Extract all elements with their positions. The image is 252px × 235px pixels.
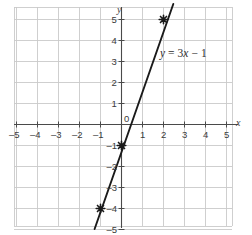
- x-tick-label: –1: [93, 130, 104, 140]
- y-tick-label: –1: [107, 141, 118, 151]
- equation-annotation: y=3x−1: [160, 48, 207, 60]
- equation-equals: =: [168, 47, 175, 59]
- y-tick-label: –3: [107, 183, 118, 193]
- y-tick-label: 4: [112, 36, 117, 46]
- origin-tick-label: 0: [124, 114, 129, 124]
- plotted-line: [95, 4, 174, 229]
- star-icon: [159, 15, 168, 24]
- y-tick-label: –5: [107, 225, 118, 235]
- x-axis-label: x: [236, 118, 240, 128]
- x-tick-label: –4: [30, 130, 41, 140]
- star-icon: [96, 204, 105, 213]
- x-tick-label: 2: [161, 130, 166, 140]
- x-tick-label: –5: [9, 130, 20, 140]
- equation-intercept: 1: [201, 47, 207, 59]
- y-tick-label: 1: [112, 99, 117, 109]
- x-tick-label: 5: [224, 130, 229, 140]
- equation-minus: −: [191, 47, 198, 59]
- x-tick-label: 4: [203, 130, 208, 140]
- data-point-marker: [96, 204, 105, 213]
- equation-y: y: [160, 47, 165, 59]
- equation-x: x: [183, 47, 188, 59]
- coordinate-graph-figure: y x 0 y=3x−1 –5–4–3–2–112345 –5–4–3–2–11…: [0, 0, 252, 235]
- y-axis-label: y: [117, 5, 121, 15]
- y-tick-label: 5: [112, 15, 117, 25]
- data-point-marker: [159, 15, 168, 24]
- data-point-marker: [117, 141, 126, 150]
- x-tick-label: 3: [182, 130, 187, 140]
- y-tick-label: 3: [112, 57, 117, 67]
- y-tick-label: –4: [107, 204, 118, 214]
- x-tick-label: 1: [140, 130, 145, 140]
- y-tick-label: 2: [112, 78, 117, 88]
- star-icon: [117, 141, 126, 150]
- x-tick-label: –2: [72, 130, 83, 140]
- x-tick-label: –3: [51, 130, 62, 140]
- y-tick-label: –2: [107, 162, 118, 172]
- line-y-equals-3x-minus-1: [95, 4, 174, 229]
